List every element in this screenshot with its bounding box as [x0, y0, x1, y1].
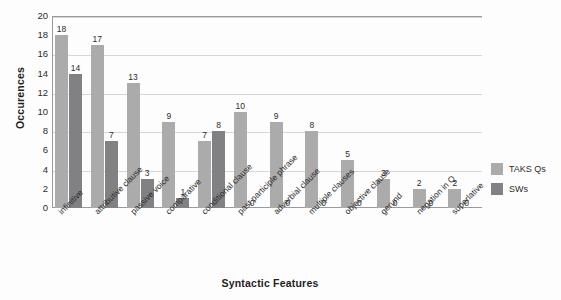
bar-value-label: 5 [345, 150, 350, 159]
x-axis-title: Syntactic Features [175, 277, 365, 289]
bar-value-label: 10 [236, 102, 245, 111]
bar: 14 [69, 74, 82, 208]
y-axis-tick-label: 4 [24, 165, 48, 175]
bar-group: 78 [196, 16, 232, 208]
legend-color-swatch [491, 163, 503, 175]
bar: 13 [127, 83, 140, 208]
bar-value-label: 7 [109, 131, 114, 140]
bar-value-label: 9 [166, 112, 171, 121]
chart-figure: Occurences 02468101214161820 18141771339… [0, 0, 561, 300]
bar-value-label: 2 [417, 179, 422, 188]
y-axis-tick-label: 10 [24, 107, 48, 117]
chart-legend: TAKS QsSWs [491, 163, 557, 203]
bar: 18 [55, 35, 68, 208]
y-axis-tick-label: 6 [24, 145, 48, 155]
bar-group: 20 [411, 16, 447, 208]
legend-label: SWs [509, 184, 528, 194]
bar-group: 177 [89, 16, 125, 208]
y-axis-tick-label: 12 [24, 88, 48, 98]
bar: 10 [234, 112, 247, 208]
y-axis-tick-label: 2 [24, 184, 48, 194]
y-axis-tick-labels: 02468101214161820 [20, 16, 48, 208]
legend-item: SWs [491, 183, 557, 195]
bar-value-label: 17 [93, 35, 102, 44]
x-axis-category-labels: infinitiveattributive clausepassive voic… [53, 210, 482, 280]
bar-group: 1814 [53, 16, 89, 208]
bar: 9 [162, 122, 175, 208]
bar-value-label: 3 [145, 169, 150, 178]
bar-value-label: 14 [71, 64, 80, 73]
bar-value-label: 13 [128, 73, 137, 82]
y-axis-tick-label: 14 [24, 69, 48, 79]
bar-value-label: 7 [202, 131, 207, 140]
bar-value-label: 8 [216, 121, 221, 130]
y-axis-tick-label: 0 [24, 203, 48, 213]
y-axis-tick-label: 18 [24, 30, 48, 40]
y-axis-tick-label: 8 [24, 126, 48, 136]
bar-value-label: 9 [274, 112, 279, 121]
legend-label: TAKS Qs [509, 164, 546, 174]
bar-value-label: 18 [57, 25, 66, 34]
y-axis-tick-label: 16 [24, 49, 48, 59]
legend-color-swatch [491, 183, 503, 195]
legend-item: TAKS Qs [491, 163, 557, 175]
y-axis-tick-label: 20 [24, 11, 48, 21]
bar-value-label: 8 [309, 121, 314, 130]
bar: 17 [91, 45, 104, 208]
